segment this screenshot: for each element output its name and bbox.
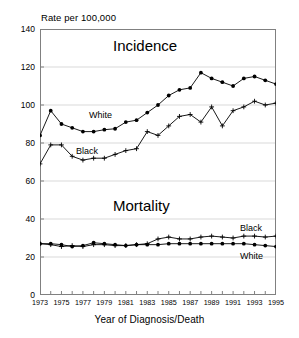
y-tick-label: 60 (9, 176, 35, 186)
data-point (91, 156, 96, 161)
data-point (123, 243, 128, 248)
data-point (220, 80, 224, 84)
data-point (263, 78, 267, 82)
data-point (40, 134, 42, 138)
data-point (60, 122, 64, 126)
data-point (81, 158, 86, 163)
data-point (81, 130, 85, 134)
data-point (252, 99, 257, 104)
x-tick-label: 1995 (263, 298, 289, 307)
y-tick-label: 80 (9, 138, 35, 148)
y-axis-title: Rate per 100,000 (41, 12, 116, 23)
data-point (178, 242, 182, 246)
data-point (263, 244, 267, 248)
data-point (220, 235, 225, 240)
data-point (253, 243, 257, 247)
data-point (274, 82, 276, 86)
data-point (252, 234, 257, 239)
data-point (145, 129, 150, 134)
data-point (199, 242, 203, 246)
data-point (220, 242, 224, 246)
data-point (123, 148, 128, 153)
data-point (156, 237, 161, 242)
data-point (231, 236, 236, 241)
y-tick-label: 100 (9, 100, 35, 110)
y-tick-label: 140 (9, 24, 35, 34)
series-label-incidence-white: White (89, 110, 112, 120)
data-point (135, 118, 139, 122)
data-point (167, 242, 171, 246)
data-point (242, 77, 246, 81)
data-point (274, 234, 276, 239)
data-point (49, 109, 53, 113)
data-point (209, 234, 214, 239)
data-point (231, 84, 235, 88)
data-point (124, 120, 128, 124)
series-label-incidence-black: Black (76, 146, 98, 156)
data-point (241, 234, 246, 239)
data-point (166, 235, 171, 240)
y-tick-label: 120 (9, 62, 35, 72)
data-point (263, 103, 268, 108)
data-point (210, 242, 214, 246)
data-point (263, 235, 268, 240)
data-point (199, 235, 204, 240)
data-point (188, 237, 193, 242)
data-point (188, 242, 192, 246)
series-label-mortality-black: Black (240, 223, 262, 233)
chart-figure: Rate per 100,000 020406080100120140 1973… (0, 0, 299, 338)
data-point (231, 242, 235, 246)
data-point (274, 245, 276, 249)
data-point (102, 156, 107, 161)
data-point (102, 128, 106, 132)
data-point (210, 77, 214, 81)
data-point (113, 127, 117, 131)
data-point (199, 71, 203, 75)
data-point (188, 86, 192, 90)
data-point (70, 126, 74, 130)
data-point (177, 237, 182, 242)
data-point (40, 241, 42, 246)
data-point (156, 243, 160, 247)
data-point (145, 111, 149, 115)
data-point (167, 94, 171, 98)
data-point (242, 242, 246, 246)
data-point (253, 75, 257, 79)
data-point (92, 130, 96, 134)
data-point (134, 146, 139, 151)
x-axis-title: Year of Diagnosis/Death (0, 314, 299, 325)
data-point (156, 103, 160, 107)
panel-title-mortality: Mortality (113, 197, 170, 214)
panel-title-incidence: Incidence (113, 37, 177, 54)
data-point (178, 88, 182, 92)
data-point (134, 242, 139, 247)
y-tick-label: 40 (9, 214, 35, 224)
data-point (113, 152, 118, 157)
y-tick-label: 20 (9, 252, 35, 262)
series-label-mortality-white: White (240, 251, 263, 261)
